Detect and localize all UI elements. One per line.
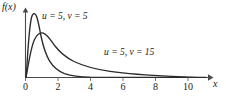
x-tick-label-0: 0: [23, 82, 28, 92]
curve-annotation-u5-v5: u = 5, v = 5: [42, 12, 88, 22]
distribution-figure: f(x) x 0 2 4 6 8 10 u = 5, v = 5 u = 5, …: [0, 0, 226, 103]
curve-u5-v5: [26, 14, 186, 78]
x-tick-label-2: 2: [56, 82, 61, 92]
x-axis-label: x: [213, 79, 217, 89]
x-tick-label-6: 6: [121, 82, 126, 92]
y-axis-arrowhead: [23, 8, 29, 13]
y-axis-label: f(x): [2, 2, 16, 12]
x-tick-label-4: 4: [88, 82, 93, 92]
curve-annotation-u5-v15: u = 5, v = 15: [104, 48, 154, 58]
x-tick-label-10: 10: [183, 82, 193, 92]
x-tick-label-8: 8: [153, 82, 158, 92]
